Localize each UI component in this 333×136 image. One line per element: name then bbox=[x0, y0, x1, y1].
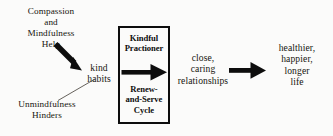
relationships-to-outcome-arrow bbox=[229, 62, 266, 79]
node-unmindfulness-hinders: Unmindfulness Hinders bbox=[6, 99, 88, 121]
node-healthier-happier-longer-life: healthier, happier, longer life bbox=[266, 42, 328, 87]
node-compassion-mindfulness-help: Compassion and Mindfulness Help bbox=[8, 6, 94, 49]
node-kindful-practioner: Kindful Practioner bbox=[120, 33, 168, 54]
node-close-caring-relationships: close, caring relationships bbox=[172, 52, 234, 86]
node-kind-habits: kind habits bbox=[80, 62, 118, 85]
flow-diagram: Compassion and Mindfulness Help kind hab… bbox=[0, 0, 333, 136]
kindful-practitioner-box: Kindful Practioner Renew- and-Serve Cycl… bbox=[118, 26, 170, 124]
node-renew-and-serve-cycle: Renew- and-Serve Cycle bbox=[120, 84, 168, 115]
